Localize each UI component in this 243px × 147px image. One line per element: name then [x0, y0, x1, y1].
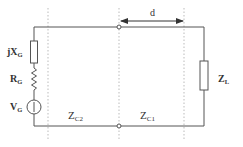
section-label-zc1: ZC1 [140, 109, 155, 123]
reactance-label: jXG [6, 46, 23, 58]
load-label: ZL [218, 73, 230, 85]
circuit-diagram: d jXG RG VG ZC2 ZC1 ZL [0, 0, 243, 147]
resistor-element [32, 68, 37, 90]
reactance-element [31, 41, 38, 63]
section-label-zc2: ZC2 [68, 109, 83, 123]
load-element [200, 61, 208, 90]
terminal-top [117, 25, 121, 29]
dimension-label: d [150, 7, 155, 18]
voltage-source [27, 100, 41, 114]
resistance-label: RG [10, 73, 22, 85]
terminal-bottom [117, 124, 121, 128]
wires [34, 27, 204, 126]
voltage-label: VG [10, 101, 22, 113]
